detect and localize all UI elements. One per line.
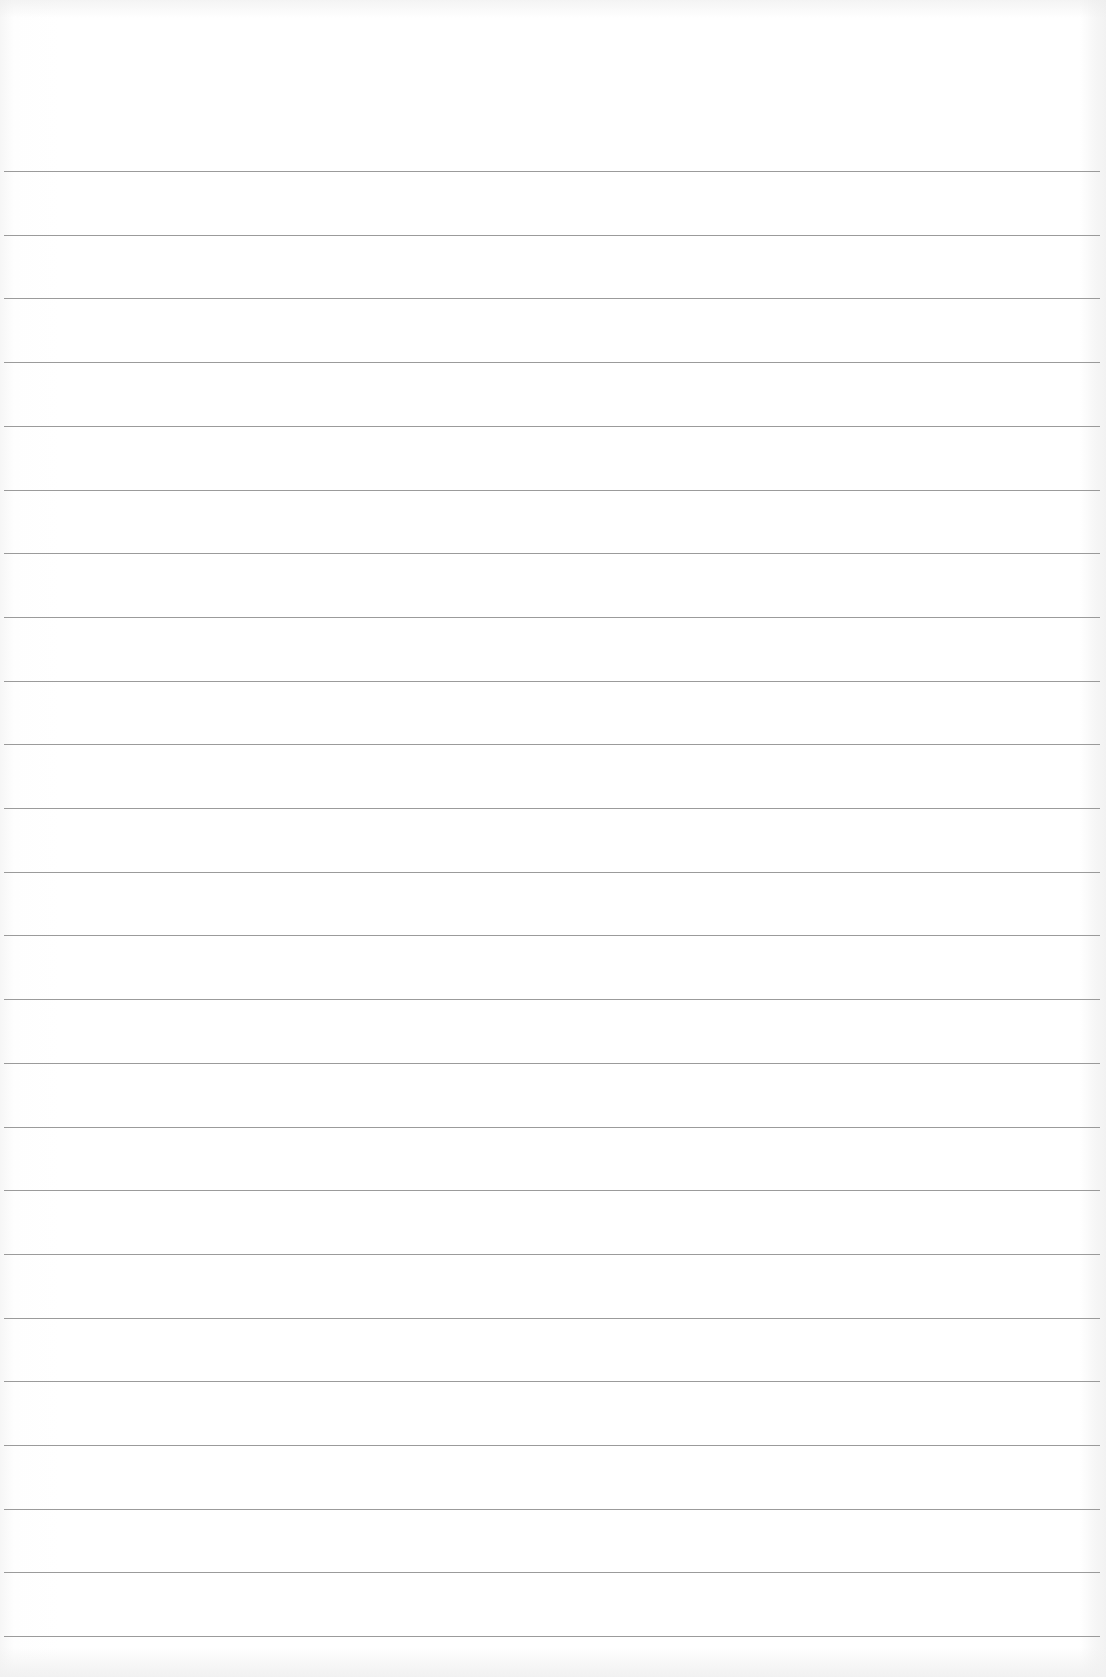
ruled-line bbox=[4, 1063, 1100, 1064]
ruled-line bbox=[4, 298, 1100, 299]
ruled-line bbox=[4, 1318, 1100, 1319]
ruled-line bbox=[4, 553, 1100, 554]
ruled-line bbox=[4, 744, 1100, 745]
scan-top-edge bbox=[0, 0, 1106, 18]
ruled-line bbox=[4, 490, 1100, 491]
ruled-line bbox=[4, 681, 1100, 682]
ruled-line bbox=[4, 808, 1100, 809]
ruled-line bbox=[4, 1509, 1100, 1510]
ruled-line bbox=[4, 1445, 1100, 1446]
ruled-line bbox=[4, 171, 1100, 172]
ruled-line bbox=[4, 1636, 1100, 1637]
ruled-line bbox=[4, 935, 1100, 936]
ruled-line bbox=[4, 426, 1100, 427]
ruled-line bbox=[4, 999, 1100, 1000]
ruled-line bbox=[4, 1381, 1100, 1382]
scan-bottom-edge bbox=[0, 1647, 1106, 1677]
ruled-line bbox=[4, 1190, 1100, 1191]
ruled-line bbox=[4, 872, 1100, 873]
lined-paper-page bbox=[0, 0, 1106, 1677]
ruled-line bbox=[4, 1127, 1100, 1128]
ruled-line bbox=[4, 617, 1100, 618]
ruled-line bbox=[4, 235, 1100, 236]
ruled-line bbox=[4, 1572, 1100, 1573]
ruled-line bbox=[4, 1254, 1100, 1255]
ruled-line bbox=[4, 362, 1100, 363]
